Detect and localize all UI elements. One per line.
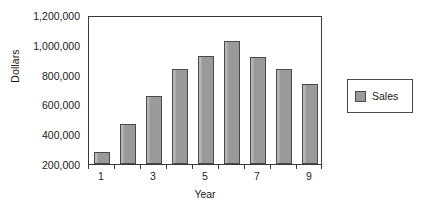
legend-box: Sales xyxy=(347,79,413,113)
y-axis-tick-label-group: 200,000400,000600,000800,0001,000,0001,2… xyxy=(16,16,84,165)
plot-area xyxy=(88,16,322,165)
bar-chart-figure: Dollars 200,000400,000600,000800,0001,00… xyxy=(0,0,427,214)
x-axis-tick-mark xyxy=(114,165,115,169)
x-axis-tick-label: 5 xyxy=(202,170,208,182)
bar xyxy=(302,84,318,164)
y-axis-tick-label: 200,000 xyxy=(42,160,80,171)
legend-label-sales: Sales xyxy=(372,90,398,102)
bar xyxy=(146,96,162,164)
x-axis-tick-label-group: 13579 xyxy=(88,170,322,184)
x-axis-tick-label: 7 xyxy=(254,170,260,182)
bar xyxy=(94,152,110,164)
x-axis-tick-label: 3 xyxy=(150,170,156,182)
x-axis-tick-mark xyxy=(88,165,89,169)
bar xyxy=(250,57,266,164)
x-axis-title: Year xyxy=(88,188,322,200)
x-axis-tick-mark xyxy=(321,165,322,169)
x-axis-tick-mark xyxy=(244,165,245,169)
x-axis-tick-mark xyxy=(140,165,141,169)
y-axis-tick-label: 400,000 xyxy=(42,130,80,141)
bar xyxy=(276,69,292,164)
x-axis-tick-mark xyxy=(166,165,167,169)
x-axis-tick-mark xyxy=(192,165,193,169)
bar xyxy=(198,56,214,164)
x-axis-tick-label: 9 xyxy=(306,170,312,182)
bars-layer xyxy=(89,17,321,164)
legend-swatch-sales xyxy=(355,91,366,102)
x-axis-tick-mark xyxy=(296,165,297,169)
x-axis-tick-label: 1 xyxy=(98,170,104,182)
x-axis-tick-mark xyxy=(218,165,219,169)
y-axis-tick-label: 1,000,000 xyxy=(33,40,80,51)
y-axis-tick-label: 600,000 xyxy=(42,100,80,111)
y-axis-tick-label: 1,200,000 xyxy=(33,11,80,22)
bar xyxy=(120,124,136,164)
x-axis-tick-mark xyxy=(270,165,271,169)
y-axis-tick-label: 800,000 xyxy=(42,70,80,81)
bar xyxy=(224,41,240,164)
bar xyxy=(172,69,188,164)
